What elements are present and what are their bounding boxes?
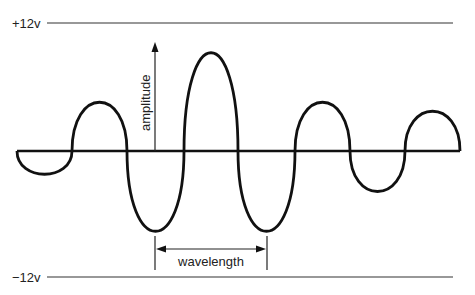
amplitude-label: amplitude: [138, 75, 153, 131]
amplitude-arrowhead-icon: [152, 42, 159, 52]
negative-rail-label: −12v: [12, 270, 41, 285]
waveform-curve: [17, 53, 460, 232]
positive-rail-label: +12v: [12, 16, 41, 31]
wavelength-left-arrowhead-icon: [156, 246, 166, 253]
waveform-diagram: +12v −12v amplitude wavelength: [0, 0, 475, 295]
wavelength-right-arrowhead-icon: [256, 246, 266, 253]
wavelength-label: wavelength: [177, 254, 244, 269]
